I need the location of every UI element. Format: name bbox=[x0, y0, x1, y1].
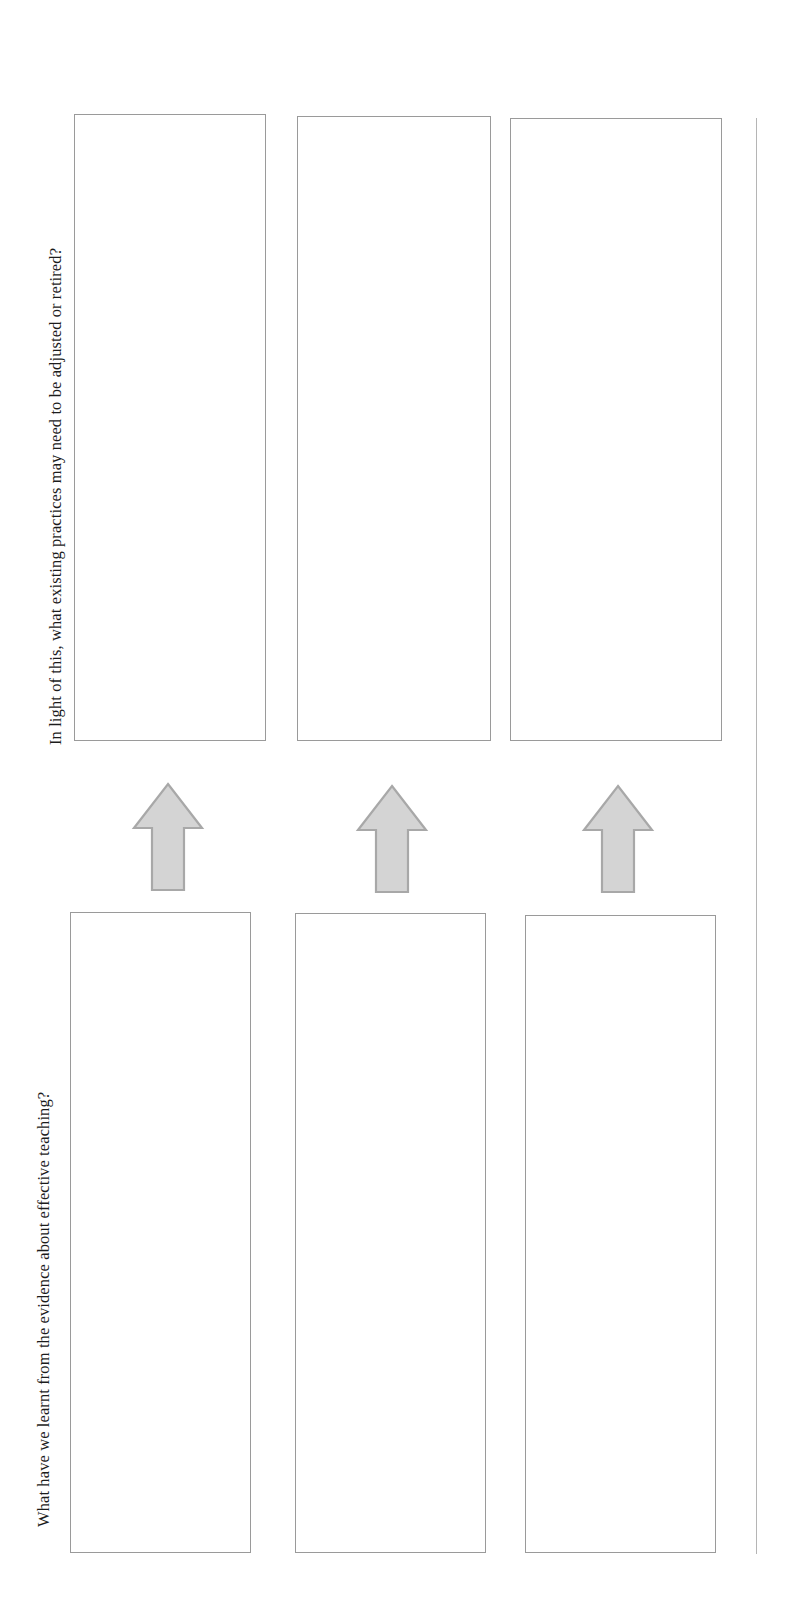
arrow-up-icon-2 bbox=[355, 783, 429, 895]
response-box-lower-1[interactable] bbox=[70, 912, 251, 1553]
response-box-upper-1[interactable] bbox=[74, 114, 266, 741]
worksheet-page: In light of this, what existing practice… bbox=[0, 0, 791, 1619]
section-label-lower: What have we learnt from the evidence ab… bbox=[34, 907, 54, 1527]
arrow-up-icon-1 bbox=[131, 781, 205, 893]
arrow-up-icon-3 bbox=[581, 783, 655, 895]
response-box-upper-3[interactable] bbox=[510, 118, 722, 741]
response-box-upper-2[interactable] bbox=[297, 116, 491, 741]
margin-rule-divider bbox=[756, 118, 757, 1554]
response-box-lower-3[interactable] bbox=[525, 915, 716, 1553]
response-box-lower-2[interactable] bbox=[295, 913, 486, 1553]
section-label-upper: In light of this, what existing practice… bbox=[46, 105, 66, 745]
